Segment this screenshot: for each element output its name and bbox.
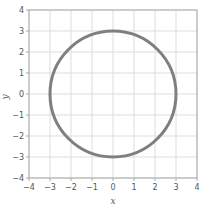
x-tick-label: −1 xyxy=(86,183,98,192)
y-tick-label: −1 xyxy=(12,111,24,120)
x-axis-ticks: −4−3−2−101234 xyxy=(23,178,199,192)
x-tick-label: 4 xyxy=(194,183,199,192)
x-axis-label: x xyxy=(110,196,115,206)
y-axis-ticks: −4−3−2−101234 xyxy=(12,6,29,183)
y-tick-label: 1 xyxy=(19,69,24,78)
y-tick-label: −3 xyxy=(12,153,24,162)
y-tick-label: 4 xyxy=(19,6,24,15)
x-tick-label: 0 xyxy=(110,183,115,192)
x-tick-label: 2 xyxy=(152,183,157,192)
y-tick-label: 0 xyxy=(19,90,24,99)
x-tick-label: 3 xyxy=(173,183,178,192)
y-tick-label: −4 xyxy=(12,174,24,183)
y-tick-label: 3 xyxy=(19,27,24,36)
chart: −4−3−2−101234 −4−3−2−101234 x y xyxy=(0,0,205,209)
y-tick-label: 2 xyxy=(19,48,24,57)
x-tick-label: −3 xyxy=(44,183,56,192)
grid-lines xyxy=(29,10,197,178)
y-axis-label: y xyxy=(0,94,10,101)
y-tick-label: −2 xyxy=(12,132,24,141)
x-tick-label: 1 xyxy=(131,183,136,192)
x-tick-label: −4 xyxy=(23,183,35,192)
x-tick-label: −2 xyxy=(65,183,77,192)
